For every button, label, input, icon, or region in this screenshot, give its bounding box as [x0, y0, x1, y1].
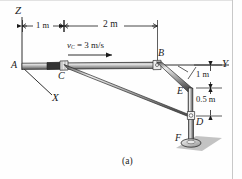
point-label-c: C — [58, 71, 65, 81]
dimension-label-be: 1 m — [196, 70, 209, 79]
axis-label-z: Z — [15, 5, 21, 16]
axis-x — [22, 67, 52, 95]
dimension-label-ac: 1 m — [36, 21, 49, 30]
rod-be — [157, 62, 193, 92]
dimension-label-cb: 2 m — [103, 20, 118, 30]
point-label-d: D — [196, 117, 203, 127]
point-label-f: F — [175, 133, 181, 143]
dimension-label-ed: 0.5 m — [196, 95, 215, 104]
axis-label-x: X — [52, 92, 59, 103]
rod-ab — [22, 62, 157, 69]
velocity-value: 3 m/s — [84, 40, 104, 50]
point-label-b: B — [158, 48, 164, 58]
point-label-a: A — [11, 60, 17, 70]
figure-container: Z X Y A C B E D F 1 m 2 m 1 m 0.5 m vC =… — [0, 0, 242, 179]
velocity-annotation: vC = 3 m/s — [67, 41, 104, 51]
joint-d — [187, 112, 194, 120]
figure-caption: (a) — [122, 157, 133, 167]
point-label-e: E — [177, 86, 183, 96]
axis-label-y: Y — [222, 58, 228, 69]
